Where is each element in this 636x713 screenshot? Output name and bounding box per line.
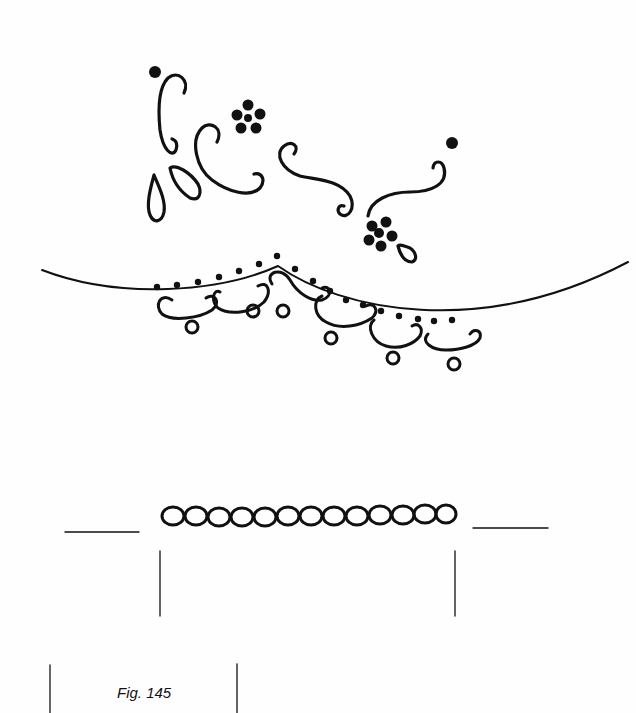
hem-line (42, 262, 628, 310)
teardrop-left (148, 175, 164, 221)
dot-icon (446, 137, 458, 149)
scroll-s (280, 144, 352, 216)
teardrop-small (398, 245, 416, 262)
dot-row (154, 253, 455, 324)
scroll-right (368, 162, 445, 216)
scroll-c-tall (159, 75, 186, 153)
chain-stitch-band (162, 505, 456, 526)
motif-scrolls (148, 66, 458, 262)
scroll-c-middle (196, 125, 263, 193)
figure-caption: Fig. 145 (117, 684, 171, 701)
embroidery-pattern (0, 0, 636, 713)
flower-grape (364, 217, 398, 252)
dot-icon (149, 66, 161, 78)
figure-canvas: Fig. 145 (0, 0, 636, 713)
flower-top (232, 100, 266, 134)
teardrop-right (170, 167, 200, 199)
